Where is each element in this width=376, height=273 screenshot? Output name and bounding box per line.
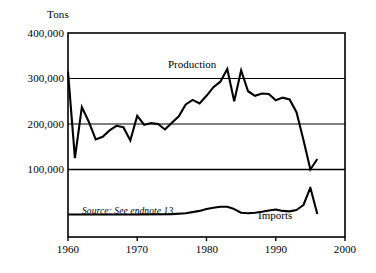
plot-area <box>0 0 376 273</box>
gridlines <box>68 79 345 170</box>
chart-figure: Tons 400,000 300,000 200,000 100,000 196… <box>0 0 376 273</box>
plot-border <box>68 33 345 237</box>
plot-frame <box>68 33 345 237</box>
imports-line <box>68 188 317 215</box>
production-line <box>68 69 317 170</box>
